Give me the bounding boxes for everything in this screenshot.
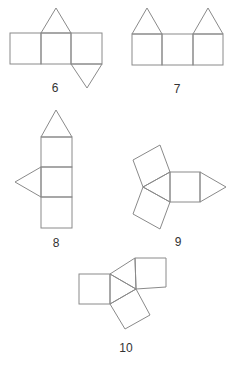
triangle	[41, 8, 71, 33]
figure-label-10: 10	[119, 341, 133, 355]
square	[170, 172, 200, 202]
square	[133, 145, 170, 187]
square	[79, 274, 110, 304]
figure-label-9: 9	[175, 235, 182, 249]
square	[132, 34, 162, 65]
triangle	[200, 172, 226, 202]
square	[41, 167, 72, 197]
triangle	[110, 258, 136, 289]
square	[41, 137, 72, 167]
square	[10, 33, 41, 64]
figure-label-6: 6	[52, 81, 59, 95]
figure-6: 6	[10, 8, 102, 95]
square	[135, 258, 166, 289]
square	[71, 33, 102, 64]
square	[41, 33, 71, 64]
square	[41, 197, 72, 228]
figure-label-8: 8	[53, 236, 60, 250]
figure-9: 9	[133, 145, 226, 249]
figure-7: 7	[132, 8, 223, 96]
figure-10: 10	[79, 258, 166, 355]
square	[110, 289, 150, 329]
triangle	[15, 167, 41, 197]
triangle	[71, 64, 102, 88]
square	[133, 187, 170, 229]
square	[193, 34, 223, 65]
figure-8: 8	[15, 110, 72, 250]
square	[162, 34, 193, 65]
triangle	[110, 274, 136, 304]
figure-label-7: 7	[174, 82, 181, 96]
triangle	[143, 172, 170, 202]
triangle	[132, 8, 162, 34]
triangle	[41, 110, 72, 137]
nets-diagram: 6 7 8 9 10	[0, 0, 249, 367]
triangle	[193, 8, 223, 34]
